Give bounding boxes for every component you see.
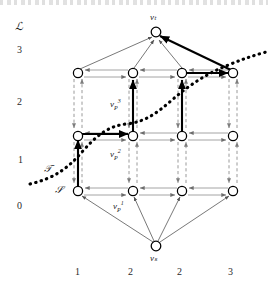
x-tick-1: 1 — [75, 266, 80, 277]
y-tick-2: 2 — [17, 96, 22, 107]
vertical-dashed-edges — [74, 79, 229, 183]
node-c3r2 — [177, 131, 186, 140]
y-tick-0: 0 — [17, 200, 22, 211]
region-label-lower: 𝒮 — [55, 184, 63, 196]
x-tick-4: 3 — [228, 266, 233, 277]
vp3-sup: 3 — [118, 98, 121, 104]
vertical-dashed-edges-up — [82, 79, 237, 183]
x-tick-3: 2 — [177, 266, 182, 277]
region-label-upper: 𝒯 — [44, 163, 52, 175]
vp2-sub: P — [114, 155, 118, 161]
node-terminal — [151, 27, 161, 37]
y-tick-3: 3 — [17, 44, 22, 55]
node-c2r3 — [128, 68, 137, 77]
node-c2r1 — [128, 186, 137, 195]
node-source — [151, 241, 161, 251]
terminal-fan-edges — [80, 37, 182, 69]
y-tick-1: 1 — [18, 154, 23, 165]
vp3-sub: P — [114, 105, 118, 111]
horizontal-edges-row1 — [84, 188, 228, 195]
node-c3r3 — [177, 68, 186, 77]
vertical-axis-label: ℒ — [15, 20, 23, 33]
node-c1r1 — [73, 186, 82, 195]
graph-figure — [0, 0, 268, 288]
grid-vertex-label-1: vP1 — [113, 200, 124, 213]
node-c4r3 — [228, 68, 237, 77]
source-fan-edges — [82, 196, 229, 242]
node-c4r2 — [228, 131, 237, 140]
x-tick-2: 2 — [128, 266, 133, 277]
node-c1r2 — [73, 131, 82, 140]
node-c4r1 — [228, 186, 237, 195]
terminal-vertex-label: vₜ — [150, 12, 157, 22]
source-vertex-label: vₛ — [150, 253, 157, 263]
highlighted-path — [78, 36, 231, 188]
vp1-sub: P — [117, 207, 121, 213]
grid-vertex-label-3: vP3 — [110, 98, 121, 111]
vp1-sup: 1 — [121, 200, 124, 206]
node-c2r2 — [128, 131, 137, 140]
node-c3r1 — [177, 186, 186, 195]
node-c1r3 — [73, 68, 82, 77]
grid-vertex-label-2: vP2 — [110, 148, 121, 161]
vp2-sup: 2 — [118, 148, 121, 154]
